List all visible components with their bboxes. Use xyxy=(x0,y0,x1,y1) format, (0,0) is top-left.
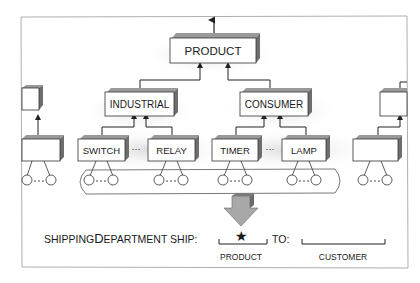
node-partial-right-lower xyxy=(353,135,402,161)
star-marker-icon: ★ xyxy=(235,228,248,244)
node-label: INDUSTRIAL xyxy=(110,99,170,110)
node-relay: RELAY xyxy=(148,135,199,161)
node-partial-right-upper xyxy=(380,88,407,116)
ellipsis: ··· xyxy=(132,144,141,154)
node-label: PRODUCT xyxy=(185,45,242,57)
node-label: CONSUMER xyxy=(245,99,303,110)
to-label: TO: xyxy=(272,233,289,245)
node-label: LAMP xyxy=(291,145,317,156)
caption-text: SHIPPINGDEPARTMENT SHIP: xyxy=(44,231,198,246)
ellipsis: ··· xyxy=(266,144,275,154)
node-switch: SWITCH xyxy=(78,135,129,161)
node-consumer: CONSUMER xyxy=(240,88,312,116)
customer-slot-label: CUSTOMER xyxy=(319,252,368,262)
node-label: SWITCH xyxy=(83,145,121,156)
customer-slot xyxy=(302,239,385,244)
shipping-hierarchy-diagram: PRODUCT INDUSTRIAL CONSUMER SWITCH ··· R… xyxy=(0,0,420,283)
product-instances-enclosure xyxy=(80,169,340,194)
product-slot-label: PRODUCT xyxy=(220,252,262,262)
node-label: TIMER xyxy=(220,145,250,156)
node-lamp: LAMP xyxy=(282,135,330,161)
node-partial-left-upper xyxy=(22,85,43,110)
node-industrial: INDUSTRIAL xyxy=(105,88,178,116)
shipping-caption: SHIPPINGDEPARTMENT SHIP: ★ TO: PRODUCT C… xyxy=(44,228,385,262)
node-timer: TIMER xyxy=(212,135,262,161)
node-partial-left-lower xyxy=(22,135,64,161)
node-label: RELAY xyxy=(156,145,187,156)
node-product: PRODUCT xyxy=(170,33,260,63)
selection-arrow xyxy=(224,193,258,226)
